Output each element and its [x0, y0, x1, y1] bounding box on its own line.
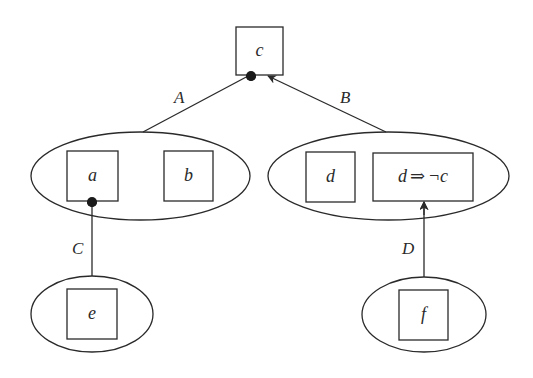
- edge-a: [143, 75, 250, 132]
- node-b-label: b: [184, 165, 193, 185]
- left-group-ellipse: [31, 132, 250, 220]
- bottom-right-group: f: [362, 277, 486, 352]
- node-d-implies-not-c-label: d⇒¬c: [398, 166, 448, 186]
- edge-b: [268, 76, 386, 132]
- node-e-label: e: [88, 303, 96, 323]
- edge-a-dot-head-overlay: [246, 71, 256, 81]
- node-a-label: a: [88, 165, 97, 185]
- node-c: c: [236, 27, 283, 75]
- edge-c-dot-head-overlay: [87, 197, 97, 207]
- edge-c-label: C: [72, 239, 84, 258]
- right-group: d d⇒¬c: [268, 132, 509, 220]
- node-c-label: c: [256, 40, 264, 60]
- edge-a-label: A: [173, 88, 185, 107]
- edge-b-label: B: [340, 88, 351, 107]
- node-d-label: d: [326, 166, 336, 186]
- diagram-canvas: A B C D c a b d d⇒¬c e f: [0, 0, 533, 378]
- bottom-left-group: e: [31, 276, 153, 352]
- left-group: a b: [31, 132, 250, 220]
- edge-d-label: D: [401, 239, 415, 258]
